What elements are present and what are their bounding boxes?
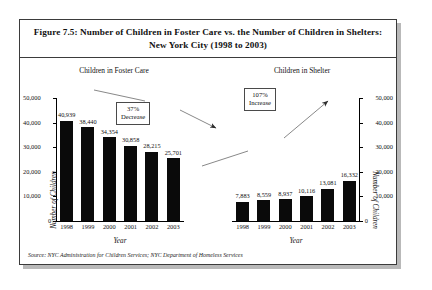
x-tick-label: 1998 <box>60 224 73 230</box>
bar-rect <box>124 146 137 221</box>
panel-heading-shelter: Children in Shelter <box>208 66 396 75</box>
figure-title-line-2: New York City (1998 to 2003) <box>149 39 267 52</box>
bar-value-label: 8,559 <box>257 192 271 198</box>
bar-rect <box>81 127 94 221</box>
figure-title-line-1: Figure 7.5: Number of Children in Foster… <box>34 26 382 39</box>
bar-value-label: 13,081 <box>319 180 336 186</box>
x-axis-labels-shelter: 1998 1999 2000 2001 2002 2003 <box>232 224 360 230</box>
x-tick-label: 1999 <box>81 224 94 230</box>
chart-panel-shelter: Children in Shelter 107% Increase 50,000 <box>208 58 396 264</box>
bar-rect <box>103 137 116 221</box>
y-tick-label-50000: 50,000 <box>375 95 393 101</box>
y-tick-40000 <box>360 123 363 124</box>
source-note: Source: NYC Administration for Children … <box>28 252 243 258</box>
x-tick-label: 2001 <box>124 224 137 230</box>
y-tick-50000 <box>360 98 363 99</box>
x-tick-label: 2002 <box>321 224 334 230</box>
y-axis-title-foster: Number of Children <box>50 171 58 229</box>
bar-item: 8,559 <box>257 98 270 221</box>
bar-value-label: 25,701 <box>165 150 182 156</box>
bar-item: 34,354 <box>103 98 116 221</box>
y-tick-label-30000: 30,000 <box>375 144 393 150</box>
y-tick-label-40000: 40,000 <box>375 120 393 126</box>
annotation-increase-word: Increase <box>249 99 271 107</box>
y-tick-label-50000: 50,000 <box>23 95 41 101</box>
annotation-decrease-word: Decrease <box>121 113 145 121</box>
bar-item: 7,883 <box>236 98 249 221</box>
x-tick-label: 1998 <box>236 224 249 230</box>
plot-area-shelter: 50,000 40,000 30,000 20,000 10,000 0 7,8… <box>232 98 360 222</box>
x-tick-label: 2003 <box>167 224 180 230</box>
figure-container: Figure 7.5: Number of Children in Foster… <box>19 19 397 265</box>
bar-item: 38,440 <box>81 98 94 221</box>
bar-item: 8,937 <box>279 98 292 221</box>
panel-heading-foster-care: Children in Foster Care <box>20 66 208 75</box>
y-axis-title-shelter: Number of Children <box>371 171 379 229</box>
bar-item: 13,081 <box>321 98 334 221</box>
bar-value-label: 28,215 <box>143 143 160 149</box>
x-axis-title-foster: Year <box>56 237 184 245</box>
charts-area: Children in Foster Care 37% Decrease 50,… <box>20 58 396 264</box>
bar-value-label: 34,354 <box>101 129 118 135</box>
y-tick-label-40000: 40,000 <box>23 120 41 126</box>
bar-rect <box>60 121 73 221</box>
y-tick-label-0: 0 <box>365 218 368 224</box>
bar-value-label: 40,939 <box>58 112 75 118</box>
bar-rect <box>257 200 270 221</box>
bar-value-label: 8,937 <box>278 191 292 197</box>
y-tick-20000 <box>360 172 363 173</box>
x-tick-label: 1999 <box>257 224 270 230</box>
x-axis-foster <box>56 221 184 222</box>
x-axis-title-shelter: Year <box>232 237 360 245</box>
bar-rect <box>321 189 334 221</box>
chart-panel-foster-care: Children in Foster Care 37% Decrease 50,… <box>20 58 208 264</box>
annotation-callout-decrease: 37% Decrease <box>116 102 150 125</box>
annotation-decrease-pct: 37% <box>121 105 145 113</box>
annotation-callout-increase: 107% Increase <box>244 88 276 111</box>
x-tick-label: 2000 <box>103 224 116 230</box>
x-tick-label: 2002 <box>145 224 158 230</box>
annotation-increase-pct: 107% <box>249 91 271 99</box>
bar-value-label: 30,858 <box>122 137 139 143</box>
y-tick-label-30000: 30,000 <box>23 144 41 150</box>
x-axis-shelter <box>232 221 360 222</box>
bar-group-shelter: 7,883 8,559 8,937 10,116 <box>232 98 360 221</box>
bar-item: 40,939 <box>60 98 73 221</box>
bar-rect <box>300 196 313 221</box>
bar-rect <box>279 199 292 221</box>
y-tick-10000 <box>360 196 363 197</box>
x-axis-labels-foster: 1998 1999 2000 2001 2002 2003 <box>56 224 184 230</box>
bar-rect <box>167 158 180 221</box>
x-tick-label: 2000 <box>279 224 292 230</box>
y-tick-0 <box>360 221 363 222</box>
bar-rect <box>236 202 249 221</box>
x-tick-label: 2003 <box>343 224 356 230</box>
bar-value-label: 7,883 <box>236 193 250 199</box>
bar-value-label: 16,332 <box>341 172 358 178</box>
bar-item: 16,332 <box>343 98 356 221</box>
y-tick-label-10000: 10,000 <box>23 193 41 199</box>
bar-value-label: 38,440 <box>79 119 96 125</box>
y-tick-30000 <box>360 147 363 148</box>
bar-rect <box>145 152 158 221</box>
figure-title: Figure 7.5: Number of Children in Foster… <box>20 20 396 58</box>
y-tick-label-20000: 20,000 <box>23 169 41 175</box>
bar-item: 25,701 <box>167 98 180 221</box>
bar-item: 10,116 <box>300 98 313 221</box>
figure-frame: Figure 7.5: Number of Children in Foster… <box>19 19 397 265</box>
bar-value-label: 10,116 <box>298 188 315 194</box>
x-tick-label: 2001 <box>300 224 313 230</box>
bar-rect <box>343 181 356 221</box>
